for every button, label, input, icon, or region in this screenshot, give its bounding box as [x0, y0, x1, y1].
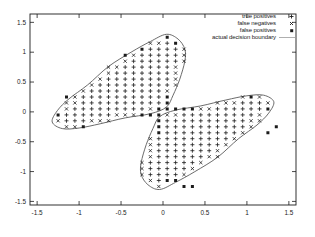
x-tick-label: 1.5 — [284, 209, 293, 216]
y-tick-label: -0.5 — [15, 138, 26, 145]
decision-boundary-lobe — [140, 95, 273, 190]
x-tick-label: -1.5 — [32, 209, 43, 216]
true-positive-points — [65, 41, 262, 182]
legend-label-decision-boundary: actual decision boundary — [212, 34, 276, 41]
legend-item-true-positives: true positives — [242, 13, 298, 20]
cross-marker-icon — [276, 20, 298, 27]
y-tick-label: -1.5 — [15, 198, 26, 205]
x-tick-label: -0.5 — [116, 209, 127, 216]
decision-boundary-lobe — [52, 34, 185, 129]
scatter-points — [57, 36, 278, 188]
legend-item-false-negatives: false negatives — [237, 20, 298, 27]
legend-item-decision-boundary: actual decision boundary — [212, 34, 298, 41]
x-tick-label: -1 — [76, 209, 82, 216]
false-positive-points — [57, 36, 278, 188]
actual-decision-boundary-curves — [52, 34, 274, 189]
square-marker-icon — [276, 27, 298, 34]
legend-label-true-positives: true positives — [242, 13, 276, 20]
legend: true positives false negatives false pos… — [212, 13, 298, 41]
y-tick-label: -1 — [20, 168, 26, 175]
y-tick-label: 1.5 — [17, 19, 26, 26]
legend-item-false-positives: false positives — [240, 27, 298, 34]
legend-label-false-negatives: false negatives — [237, 20, 276, 27]
classification-scatter-figure: -1.5-1-0.500.511.5-1.5-1-0.500.511.5 tru… — [0, 0, 315, 237]
x-tick-label: 0.5 — [201, 209, 210, 216]
x-tick-label: 0 — [161, 209, 165, 216]
y-tick-label: 0 — [22, 108, 26, 115]
boundary-line-icon — [276, 34, 298, 41]
legend-label-false-positives: false positives — [240, 27, 276, 34]
plus-marker-icon — [276, 13, 298, 20]
x-tick-label: 1 — [245, 209, 249, 216]
y-tick-label: 0.5 — [17, 78, 26, 85]
y-tick-label: 1 — [22, 48, 26, 55]
